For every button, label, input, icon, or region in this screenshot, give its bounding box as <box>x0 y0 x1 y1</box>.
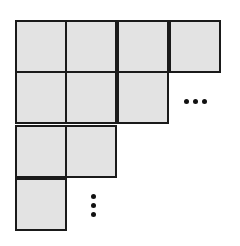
ellipsis-dot <box>91 212 96 217</box>
cell-r1-c1 <box>15 20 67 73</box>
cell-r3-c1 <box>15 125 67 178</box>
staircase-diagram <box>0 0 240 246</box>
cell-r1-c2 <box>65 20 117 73</box>
ellipsis-dot <box>91 194 96 199</box>
cell-r2-c2 <box>65 71 117 124</box>
ellipsis-dot <box>193 99 198 104</box>
ellipsis-dot <box>184 99 189 104</box>
cell-r2-c3 <box>117 71 169 124</box>
cell-r3-c2 <box>65 125 117 178</box>
cell-r1-c4 <box>169 20 221 73</box>
cell-r1-c3 <box>117 20 169 73</box>
cell-r2-c1 <box>15 71 67 124</box>
cell-r4-c1 <box>15 178 67 231</box>
ellipsis-dot <box>91 203 96 208</box>
ellipsis-dot <box>202 99 207 104</box>
